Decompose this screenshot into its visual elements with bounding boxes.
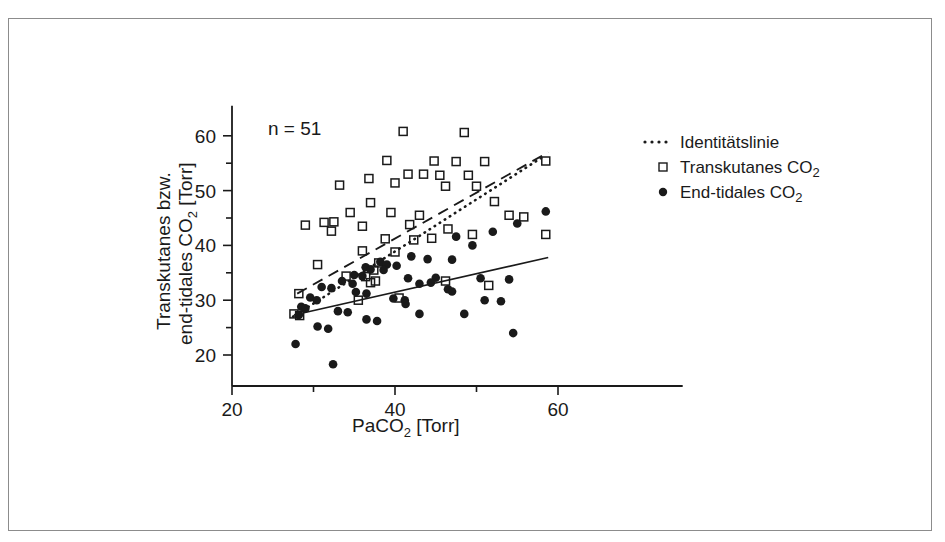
data-point-endtidal bbox=[448, 255, 457, 264]
data-point-transcutaneous bbox=[327, 227, 335, 235]
data-point-endtidal bbox=[295, 311, 304, 320]
data-point-endtidal bbox=[389, 294, 398, 303]
data-point-endtidal bbox=[427, 278, 436, 287]
data-point-endtidal bbox=[513, 219, 522, 228]
data-point-transcutaneous bbox=[444, 225, 452, 233]
data-point-transcutaneous bbox=[473, 182, 481, 190]
data-point-endtidal bbox=[392, 261, 401, 270]
data-point-endtidal bbox=[301, 304, 310, 313]
data-point-endtidal bbox=[509, 329, 518, 338]
data-point-endtidal bbox=[415, 279, 424, 288]
y-axis-tick-label: 60 bbox=[195, 126, 216, 147]
data-point-transcutaneous bbox=[330, 218, 338, 226]
data-point-transcutaneous bbox=[415, 211, 423, 219]
data-point-transcutaneous bbox=[320, 218, 328, 226]
y-axis-title-line2-sub: 2 bbox=[185, 211, 200, 218]
legend: Identitätslinie Transkutanes CO2 End-tid… bbox=[643, 133, 819, 205]
data-point-endtidal bbox=[350, 271, 359, 280]
legend-label-endtidal: End-tidales CO bbox=[680, 183, 795, 202]
open-square-icon bbox=[659, 163, 667, 171]
legend-item-transcutaneous: Transkutanes CO2 bbox=[659, 158, 820, 180]
data-point-transcutaneous bbox=[520, 213, 528, 221]
data-point-transcutaneous bbox=[420, 170, 428, 178]
x-axis-tick-label: 20 bbox=[221, 399, 242, 420]
x-axis-title-main: PaCO bbox=[352, 415, 404, 436]
data-point-transcutaneous bbox=[301, 221, 309, 229]
data-point-endtidal bbox=[317, 283, 326, 292]
data-point-transcutaneous bbox=[452, 158, 460, 166]
sample-size-annotation: n = 51 bbox=[268, 118, 321, 139]
y-axis-title-line2-unit: [Torr] bbox=[175, 162, 196, 211]
data-point-transcutaneous bbox=[314, 261, 322, 269]
data-point-transcutaneous bbox=[460, 129, 468, 137]
data-point-transcutaneous bbox=[442, 182, 450, 190]
legend-label-transcutaneous: Transkutanes CO bbox=[680, 158, 813, 177]
data-point-endtidal bbox=[401, 300, 410, 309]
data-point-transcutaneous bbox=[485, 281, 493, 289]
dotted-line-icon bbox=[643, 140, 667, 143]
data-point-transcutaneous bbox=[383, 156, 391, 164]
data-point-endtidal bbox=[313, 322, 322, 331]
legend-label-identity-line: Identitätslinie bbox=[680, 133, 779, 152]
data-point-endtidal bbox=[460, 310, 469, 319]
svg-text:Transkutanes CO2: Transkutanes CO2 bbox=[680, 158, 820, 180]
data-point-transcutaneous bbox=[481, 158, 489, 166]
data-point-transcutaneous bbox=[387, 209, 395, 217]
data-point-endtidal bbox=[489, 227, 498, 236]
x-axis-title-unit: [Torr] bbox=[411, 415, 460, 436]
data-point-endtidal bbox=[448, 287, 457, 296]
data-point-transcutaneous bbox=[365, 175, 373, 183]
data-point-endtidal bbox=[312, 296, 321, 305]
data-point-endtidal bbox=[373, 317, 382, 326]
y-axis-title-line1: Transkutanes bzw. bbox=[153, 172, 174, 330]
data-point-transcutaneous bbox=[358, 222, 366, 230]
data-point-endtidal bbox=[541, 207, 550, 216]
x-axis-title: PaCO2 [Torr] bbox=[352, 415, 460, 440]
data-point-endtidal bbox=[334, 307, 343, 316]
data-point-endtidal bbox=[366, 265, 375, 274]
data-point-transcutaneous bbox=[358, 247, 366, 255]
data-point-transcutaneous bbox=[436, 171, 444, 179]
y-axis-title-line2-main: end-tidales CO bbox=[175, 218, 196, 345]
data-point-endtidal bbox=[343, 308, 352, 317]
data-point-endtidal bbox=[358, 272, 367, 281]
data-point-transcutaneous bbox=[406, 221, 414, 229]
data-point-transcutaneous bbox=[346, 209, 354, 217]
data-point-transcutaneous bbox=[464, 171, 472, 179]
data-point-transcutaneous bbox=[381, 235, 389, 243]
data-point-transcutaneous bbox=[336, 181, 344, 189]
data-point-endtidal bbox=[324, 324, 333, 333]
data-point-transcutaneous bbox=[542, 230, 550, 238]
y-axis-tick-label: 40 bbox=[195, 235, 216, 256]
legend-label-endtidal-sub: 2 bbox=[795, 190, 802, 205]
data-point-endtidal bbox=[497, 297, 506, 306]
data-point-transcutaneous bbox=[428, 234, 436, 242]
y-axis-tick-label: 50 bbox=[195, 181, 216, 202]
legend-item-identity-line: Identitätslinie bbox=[643, 133, 779, 152]
data-point-endtidal bbox=[362, 315, 371, 324]
data-point-endtidal bbox=[476, 274, 485, 283]
data-point-transcutaneous bbox=[505, 211, 513, 219]
data-point-endtidal bbox=[415, 310, 424, 319]
data-point-endtidal bbox=[407, 252, 416, 261]
data-point-transcutaneous bbox=[367, 199, 375, 207]
axes bbox=[223, 106, 683, 395]
data-point-endtidal bbox=[404, 274, 413, 283]
data-point-endtidal bbox=[423, 255, 432, 264]
y-axis-tick-label: 30 bbox=[195, 290, 216, 311]
data-point-endtidal bbox=[348, 279, 357, 288]
data-points bbox=[290, 127, 550, 368]
legend-label-transcutaneous-sub: 2 bbox=[813, 165, 820, 180]
data-point-endtidal bbox=[352, 288, 361, 297]
data-point-endtidal bbox=[327, 284, 336, 293]
data-point-transcutaneous bbox=[468, 230, 476, 238]
scatter-plot: 2040602030405060 n = 51 PaCO2 [Torr] Tra… bbox=[0, 0, 945, 542]
x-axis-tick-label: 60 bbox=[547, 399, 568, 420]
data-point-transcutaneous bbox=[430, 157, 438, 165]
legend-item-endtidal: End-tidales CO2 bbox=[659, 183, 803, 205]
data-point-endtidal bbox=[291, 340, 300, 349]
data-point-transcutaneous bbox=[490, 198, 498, 206]
data-point-endtidal bbox=[362, 289, 371, 298]
data-point-endtidal bbox=[468, 241, 477, 250]
trend-line-dashed bbox=[297, 152, 548, 293]
